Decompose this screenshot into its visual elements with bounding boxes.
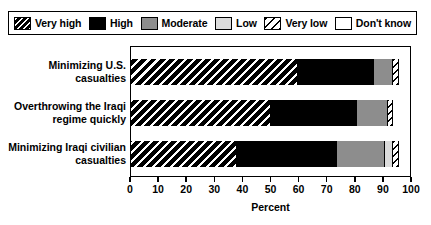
category-label-minimizing-iraqi-civilian-casualties: Minimizing Iraqi civilian casualties bbox=[4, 141, 126, 166]
x-axis-tick bbox=[410, 177, 412, 182]
table-row bbox=[131, 141, 410, 167]
category-label-line: regime quickly bbox=[4, 113, 126, 126]
legend-label: Very low bbox=[285, 18, 327, 29]
x-axis-tick-label: 90 bbox=[377, 183, 389, 195]
legend-label: Moderate bbox=[162, 18, 208, 29]
bar-segment-dontknow bbox=[399, 141, 410, 167]
bar-segment-veryhigh bbox=[131, 100, 271, 126]
bar-segment-dontknow bbox=[393, 100, 410, 126]
x-axis-title: Percent bbox=[130, 201, 411, 213]
x-axis-tick-label: 20 bbox=[180, 183, 192, 195]
legend-item-dont-know: Don't know bbox=[335, 17, 411, 30]
table-row bbox=[131, 100, 410, 126]
x-axis-tick bbox=[382, 177, 384, 182]
bars-container bbox=[131, 47, 410, 176]
x-axis-tick-label: 40 bbox=[237, 183, 249, 195]
legend-label: High bbox=[110, 18, 133, 29]
x-axis-tick-label: 80 bbox=[349, 183, 361, 195]
legend-item-very-low: Very low bbox=[264, 17, 327, 30]
legend-label: Don't know bbox=[356, 18, 411, 29]
x-axis-tick bbox=[326, 177, 328, 182]
x-axis-tick-label: 60 bbox=[293, 183, 305, 195]
bar-segment-dontknow bbox=[399, 59, 410, 85]
very-high-swatch-icon bbox=[14, 17, 31, 30]
bar-segment-moderate bbox=[337, 141, 384, 167]
x-axis-tick bbox=[242, 177, 244, 182]
bar-segment-moderate bbox=[374, 59, 394, 85]
plot-area bbox=[130, 46, 411, 177]
low-swatch-icon bbox=[215, 17, 232, 30]
bar-segment-low bbox=[385, 141, 393, 167]
high-swatch-icon bbox=[89, 17, 106, 30]
x-axis-tick-labels: 0102030405060708090100 bbox=[130, 183, 411, 196]
legend-item-low: Low bbox=[215, 17, 257, 30]
category-label-line: casualties bbox=[4, 154, 126, 167]
bar-segment-veryhigh bbox=[131, 141, 237, 167]
category-label-minimizing-us-casualties: Minimizing U.S. casualties bbox=[4, 59, 126, 84]
bar-segment-high bbox=[271, 100, 357, 126]
x-axis-tick bbox=[270, 177, 272, 182]
category-label-overthrowing-iraqi-regime: Overthrowing the Iraqi regime quickly bbox=[4, 100, 126, 125]
bar-segment-high bbox=[237, 141, 337, 167]
category-label-line: Minimizing U.S. bbox=[4, 59, 126, 72]
table-row bbox=[131, 59, 410, 85]
x-axis-tick bbox=[129, 177, 131, 182]
bar-segment-high bbox=[298, 59, 373, 85]
bar-segment-moderate bbox=[357, 100, 388, 126]
legend-label: Low bbox=[236, 18, 257, 29]
x-axis-tick bbox=[185, 177, 187, 182]
category-label-line: Overthrowing the Iraqi bbox=[4, 100, 126, 113]
x-axis-tick bbox=[214, 177, 216, 182]
x-axis-tick-label: 50 bbox=[265, 183, 277, 195]
x-axis-tick bbox=[157, 177, 159, 182]
legend-item-moderate: Moderate bbox=[141, 17, 208, 30]
x-axis-tick-label: 70 bbox=[321, 183, 333, 195]
x-axis-tick-label: 10 bbox=[152, 183, 164, 195]
category-label-line: Minimizing Iraqi civilian bbox=[4, 141, 126, 154]
dont-know-swatch-icon bbox=[335, 17, 352, 30]
very-low-swatch-icon bbox=[264, 17, 281, 30]
x-axis-tick-label: 30 bbox=[208, 183, 220, 195]
legend-item-very-high: Very high bbox=[14, 17, 81, 30]
x-axis-tick-label: 100 bbox=[402, 183, 420, 195]
category-label-line: casualties bbox=[4, 72, 126, 85]
x-axis-tick-label: 0 bbox=[127, 183, 133, 195]
x-axis-ticks bbox=[130, 177, 411, 182]
x-axis-tick bbox=[298, 177, 300, 182]
x-axis-tick bbox=[354, 177, 356, 182]
moderate-swatch-icon bbox=[141, 17, 158, 30]
legend-label: Very high bbox=[35, 18, 81, 29]
legend-item-high: High bbox=[89, 17, 133, 30]
legend: Very high High Moderate Low Very low Don… bbox=[8, 11, 417, 35]
bar-segment-veryhigh bbox=[131, 59, 298, 85]
